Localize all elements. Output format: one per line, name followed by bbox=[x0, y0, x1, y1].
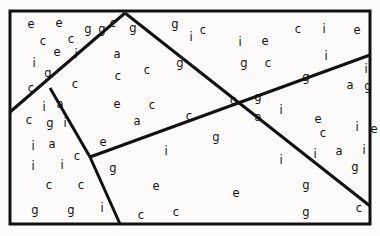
right-descent-from-apex bbox=[125, 13, 370, 206]
letter-partition-figure: eeggcggcciecciieeiaiiggcgcicgccagiaeccgc… bbox=[0, 0, 380, 236]
short-vertex-stub bbox=[50, 88, 90, 157]
low-rising-diagonal bbox=[90, 55, 370, 157]
outer-rectangle bbox=[10, 11, 370, 224]
partition-lines-group bbox=[10, 13, 370, 224]
lines-layer bbox=[0, 0, 380, 236]
junction-to-bottom-line bbox=[90, 157, 120, 224]
left-peak-line bbox=[10, 13, 125, 112]
